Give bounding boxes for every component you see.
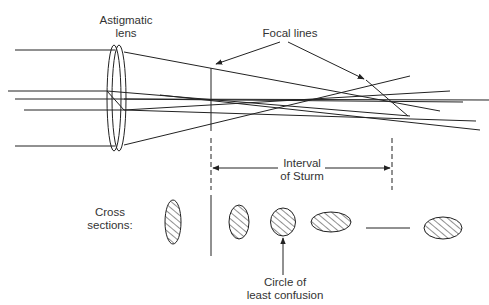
interval-label-line1: Interval xyxy=(276,157,328,170)
cross-section-vertical-ellipse xyxy=(165,200,181,244)
cross-label-line1: Cross xyxy=(78,206,142,219)
lens-label: Astigmatic lens xyxy=(96,14,156,40)
astigmatic-lens xyxy=(107,45,126,151)
cross-section-tall-oval xyxy=(229,205,249,239)
lens-label-line2: lens xyxy=(96,27,156,40)
cross-sections-label: Cross sections: xyxy=(78,206,142,232)
focal-arrow-left xyxy=(216,42,280,64)
cross-section-wide-oval-2 xyxy=(424,217,462,239)
refracted-rays xyxy=(107,52,489,145)
focal-lines-text: Focal lines xyxy=(263,27,318,39)
focal-lines-label: Focal lines xyxy=(255,27,325,40)
focal-arrow-right xyxy=(288,42,364,79)
lens-label-line1: Astigmatic xyxy=(96,14,156,27)
circle-label-line1: Circle of xyxy=(240,276,330,289)
circle-of-least-confusion-label: Circle of least confusion xyxy=(240,276,330,302)
cross-section-wide-oval xyxy=(311,212,351,232)
cross-section-circle xyxy=(271,208,296,236)
astigmatism-diagram xyxy=(0,0,489,305)
interval-label: Interval of Sturm xyxy=(276,157,328,183)
circle-label-line2: least confusion xyxy=(240,289,330,302)
cross-sections xyxy=(165,195,462,256)
interval-label-line2: of Sturm xyxy=(276,170,328,183)
cross-label-line2: sections: xyxy=(78,219,142,232)
